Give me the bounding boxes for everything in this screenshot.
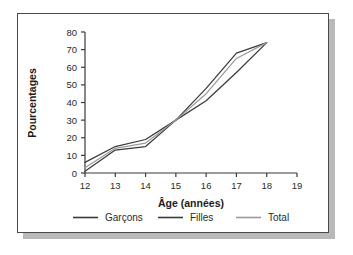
y-tick-label: 0 — [72, 168, 77, 179]
figure-frame: 01020304050607080 1213141516171819 Pourc… — [17, 13, 329, 233]
y-tick-label: 10 — [66, 150, 77, 161]
y-tick-label: 30 — [66, 115, 77, 126]
y-axis-title: Pourcentages — [26, 68, 38, 138]
x-tick-label: 14 — [140, 180, 151, 191]
series-line-garcons — [85, 43, 267, 163]
y-tick-label: 20 — [66, 132, 77, 143]
y-axis-tick-labels: 01020304050607080 — [66, 27, 77, 179]
y-tick-label: 80 — [66, 27, 77, 38]
y-tick-label: 40 — [66, 97, 77, 108]
series-line-total — [85, 43, 267, 168]
line-chart: 01020304050607080 1213141516171819 Pourc… — [18, 14, 328, 232]
series-line-filles — [85, 43, 267, 172]
series-lines — [85, 43, 267, 172]
x-tick-label: 16 — [201, 180, 212, 191]
x-axis-ticks — [85, 173, 297, 177]
legend-label-1: Filles — [190, 212, 213, 223]
legend-label-0: Garçons — [105, 212, 143, 223]
x-axis-title: Âge (années) — [158, 197, 224, 209]
x-tick-label: 15 — [171, 180, 182, 191]
x-tick-label: 19 — [292, 180, 303, 191]
x-tick-label: 13 — [110, 180, 121, 191]
y-tick-label: 60 — [66, 62, 77, 73]
x-tick-label: 17 — [231, 180, 242, 191]
legend: GarçonsFillesTotal — [73, 212, 289, 223]
legend-label-2: Total — [268, 212, 289, 223]
y-tick-label: 50 — [66, 79, 77, 90]
x-tick-label: 12 — [80, 180, 91, 191]
x-axis-tick-labels: 1213141516171819 — [80, 180, 303, 191]
figure-root: 01020304050607080 1213141516171819 Pourc… — [0, 0, 353, 255]
y-tick-label: 70 — [66, 44, 77, 55]
x-tick-label: 18 — [261, 180, 272, 191]
